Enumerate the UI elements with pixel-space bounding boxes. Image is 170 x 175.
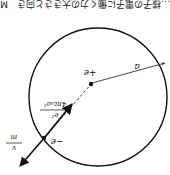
velocity-numerator: v [12, 144, 16, 152]
caption-text: …様子の電子に働く力の大きさと向き M [0, 0, 170, 10]
radius-arrow [92, 63, 165, 83]
radius-label-text: a [134, 62, 139, 72]
nucleus-charge-label: +e [84, 68, 97, 78]
electron-dot [42, 136, 46, 140]
atom-model-diagram: …様子の電子に働く力の大きさと向き M +e −e a e² 4π [0, 0, 170, 175]
force-numerator: e² [51, 111, 58, 119]
electron-charge-label: −e [51, 137, 64, 147]
caption-fragment: …様子の電子に働く力の大きさと向き M [0, 0, 170, 10]
diagram-canvas: …様子の電子に働く力の大きさと向き M +e −e a e² 4π [0, 0, 170, 175]
force-denominator: 4πε₀a² [44, 100, 68, 108]
velocity-label: v m [6, 133, 22, 152]
electron-label-text: −e [51, 137, 64, 147]
radius-label: a [134, 62, 139, 72]
nucleus-label-text: +e [84, 68, 97, 78]
velocity-arrow [20, 137, 45, 166]
force-magnitude-label: e² 4πε₀a² [40, 100, 70, 119]
velocity-denominator: m [10, 133, 17, 141]
orbit-circle [29, 28, 167, 166]
nucleus-dot [89, 82, 93, 86]
